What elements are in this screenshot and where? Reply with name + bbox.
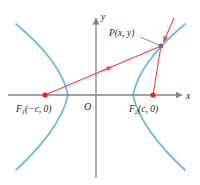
- point-p-dot: [159, 44, 164, 49]
- hyperbola-figure: y x O F1(−c, 0) F2(c, 0) P(x, y): [0, 0, 200, 185]
- focus-left-label: F1(−c, 0): [15, 104, 52, 115]
- focus-right-dot: [150, 92, 155, 97]
- focus-right-label: F2(c, 0): [128, 104, 158, 115]
- point-p-coords: (x, y): [115, 28, 135, 39]
- svg-text:F2(c, 0): F2(c, 0): [128, 104, 158, 115]
- focus-left-dot: [42, 92, 47, 97]
- focus-left-coords: (−c, 0): [25, 104, 51, 115]
- x-axis-label: x: [185, 90, 191, 101]
- svg-text:P(x, y): P(x, y): [108, 28, 134, 39]
- origin-label: O: [84, 101, 91, 112]
- y-axis-label: y: [100, 11, 106, 22]
- focus-right-coords: (c, 0): [138, 104, 158, 115]
- svg-text:F1(−c, 0): F1(−c, 0): [15, 104, 52, 115]
- point-p-label: P(x, y): [108, 28, 134, 39]
